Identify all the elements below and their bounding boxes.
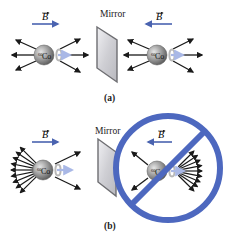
emission-arrow	[55, 152, 80, 164]
emission-arrow	[132, 152, 148, 165]
field-label: B	[156, 11, 162, 22]
panel-a-left-field: B	[32, 11, 58, 24]
field-label: B	[42, 11, 48, 22]
panel-caption: (b)	[104, 221, 116, 232]
panel-caption: (a)	[104, 93, 115, 104]
emission-arrow	[60, 39, 80, 49]
panel-b: B 60 Co Mirror B	[11, 116, 220, 232]
mirror-label: Mirror	[100, 9, 126, 19]
emission-arrow	[173, 61, 193, 72]
prohibition-sign-icon	[116, 116, 220, 220]
emission-arrow	[128, 40, 149, 49]
panel-b-left-field: B	[32, 129, 58, 142]
panel-a-left-nucleus-group: 60 Co	[12, 39, 88, 72]
emission-arrow	[173, 39, 193, 49]
emission-arrow	[60, 61, 80, 72]
element-symbol: Co	[41, 167, 50, 176]
panel-a: B 60 Co Mirror B	[12, 9, 202, 104]
field-label: B	[42, 129, 48, 140]
parity-violation-diagram: B 60 Co Mirror B	[0, 0, 230, 236]
emission-fan-backward	[11, 147, 36, 192]
emission-arrow	[16, 61, 36, 70]
mirror-icon	[97, 27, 117, 82]
panel-a-right-field: B	[146, 11, 172, 24]
mirror-label: Mirror	[95, 126, 121, 136]
emission-arrow	[55, 177, 80, 189]
panel-b-left-nucleus-group: 60 Co	[11, 147, 80, 192]
emission-arrow	[16, 40, 36, 49]
field-label: B	[158, 129, 164, 140]
emission-arrow	[128, 61, 149, 70]
panel-b-right-field: B	[148, 129, 172, 142]
panel-a-right-nucleus-group: 60 Co	[124, 39, 202, 72]
element-symbol: Co	[155, 52, 164, 61]
element-symbol: Co	[42, 52, 51, 61]
